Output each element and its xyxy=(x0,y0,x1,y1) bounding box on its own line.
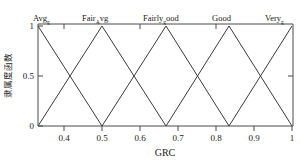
plot-frame xyxy=(38,24,293,126)
term-fairly-text: Fairly xyxy=(143,13,164,23)
y-axis-title: 隶属度函数 xyxy=(3,53,13,98)
curve-fair-avg xyxy=(38,26,166,126)
xtick-label-08: 0.8 xyxy=(210,133,222,143)
fuzzy-membership-chart: 1 0.5 0 0.4 0.5 0.6 0.7 0.8 0.9 1 Av xyxy=(0,0,301,161)
term-label-avg: Avgg xyxy=(33,13,50,25)
xtick-label-10: 1 xyxy=(290,133,295,143)
xtick-label-09: 0.9 xyxy=(248,133,260,143)
membership-curves xyxy=(38,26,292,126)
term-label-good: Good xyxy=(212,13,232,23)
term-fair-text: Fair xyxy=(82,13,96,23)
xtick-label-04: 0.4 xyxy=(58,133,70,143)
chart-svg: 1 0.5 0 0.4 0.5 0.6 0.7 0.8 0.9 1 Av xyxy=(0,0,301,161)
xtick-label-06: 0.6 xyxy=(134,133,146,143)
term-fairly-tail: ood xyxy=(166,13,180,23)
term-labels: Avgg FairAvg Fairlygood Good Veryg xyxy=(33,13,284,25)
y-ticks: 1 0.5 0 xyxy=(23,21,293,131)
term-avg-text: Avg xyxy=(33,13,48,23)
term-fair-tail: vg xyxy=(100,13,109,23)
curve-good xyxy=(166,26,292,126)
xtick-label-07: 0.7 xyxy=(172,133,184,143)
term-avg-sub: g xyxy=(47,19,50,25)
curve-fairly-good xyxy=(102,26,229,126)
term-very-text: Very xyxy=(265,13,282,23)
term-label-fairly-good: Fairlygood xyxy=(143,13,180,25)
ytick-label-0: 0 xyxy=(30,121,35,131)
term-very-sub: g xyxy=(281,19,284,25)
term-label-fair-avg: FairAvg xyxy=(82,13,109,25)
ytick-label-05: 0.5 xyxy=(23,71,35,81)
x-axis-title: GRC xyxy=(155,147,176,158)
xtick-label-05: 0.5 xyxy=(96,133,108,143)
term-label-very-good: Veryg xyxy=(265,13,284,25)
